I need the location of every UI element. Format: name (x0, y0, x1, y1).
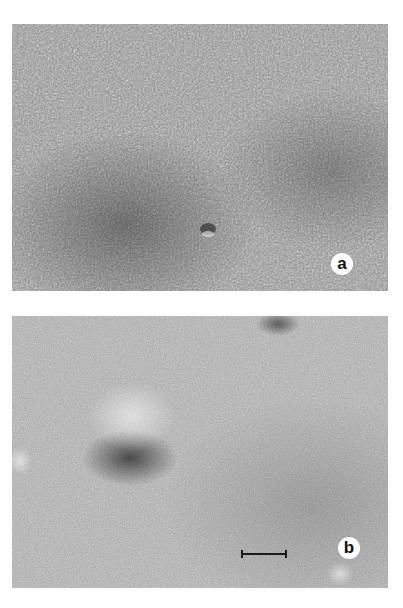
micrograph-panel-b (12, 316, 388, 588)
micrograph-panel-a (12, 24, 388, 291)
panel-label-b: b (338, 537, 360, 559)
scale-bar (241, 553, 287, 555)
micrograph-texture-a (12, 24, 388, 291)
micrograph-texture-b (12, 316, 388, 588)
panel-label-a: a (331, 253, 353, 275)
